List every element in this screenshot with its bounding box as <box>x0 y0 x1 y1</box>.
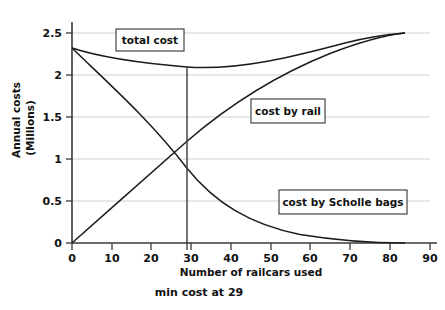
x-axis-title: Number of railcars used <box>180 266 322 278</box>
y-tick-label-0.5: 0.5 <box>43 195 63 208</box>
x-axis-tick-labels: 0 10 20 30 40 50 60 70 80 90 <box>68 252 438 265</box>
x-tick-label-90: 90 <box>422 252 438 265</box>
chart-canvas: 2.5 2 1.5 1 0.5 0 0 10 20 30 40 <box>0 0 445 310</box>
x-tick-label-70: 70 <box>342 252 358 265</box>
x-tick-label-50: 50 <box>263 252 279 265</box>
chart-figure: 2.5 2 1.5 1 0.5 0 0 10 20 30 40 <box>0 0 445 310</box>
x-axis-ticks <box>72 243 430 250</box>
legend-total-cost-label: total cost <box>122 34 178 46</box>
x-tick-label-30: 30 <box>183 252 199 265</box>
x-tick-label-0: 0 <box>68 252 76 265</box>
x-tick-label-80: 80 <box>382 252 398 265</box>
legend-cost-by-rail-label: cost by rail <box>255 105 321 117</box>
legend-cost-by-scholle-bags-label: cost by Scholle bags <box>282 196 403 208</box>
x-tick-label-20: 20 <box>143 252 159 265</box>
legend-cost-by-scholle-bags[interactable]: cost by Scholle bags <box>279 190 407 214</box>
y-tick-label-0: 0 <box>54 237 62 250</box>
legend-total-cost[interactable]: total cost <box>116 29 184 51</box>
y-axis-ticks <box>66 33 72 243</box>
y-tick-label-2: 2 <box>54 69 62 82</box>
x-tick-label-40: 40 <box>223 252 239 265</box>
y-axis-tick-labels: 2.5 2 1.5 1 0.5 0 <box>43 27 63 250</box>
y-tick-label-2.5: 2.5 <box>43 27 63 40</box>
y-axis-title-line1: Annual costs <box>10 82 22 158</box>
y-axis-title-line2: (Millions) <box>24 100 36 155</box>
x-tick-label-60: 60 <box>302 252 318 265</box>
y-tick-label-1.5: 1.5 <box>43 111 63 124</box>
y-tick-label-1: 1 <box>54 153 62 166</box>
chart-caption: min cost at 29 <box>155 286 243 299</box>
legend-cost-by-rail[interactable]: cost by rail <box>251 99 325 123</box>
x-tick-label-10: 10 <box>104 252 120 265</box>
